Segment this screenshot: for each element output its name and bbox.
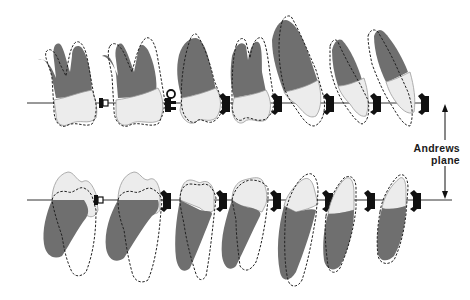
lower-lateral-incisor	[323, 176, 356, 272]
lower-canine	[278, 174, 318, 286]
arrow-down-icon	[442, 191, 448, 199]
molar-tube-icon	[99, 98, 108, 108]
incisor-bracket-icon	[364, 190, 375, 212]
lower-second-premolar	[175, 180, 216, 280]
label-line-2: plane	[400, 154, 460, 166]
andrews-plane-diagram: Andrews plane	[0, 0, 470, 300]
incisor-bracket-icon	[370, 93, 381, 115]
label-line-1: Andrews	[400, 142, 460, 154]
incisor-bracket-icon	[418, 93, 429, 115]
premolar-bracket-icon	[216, 190, 227, 212]
molar-tube-icon	[94, 195, 103, 205]
molar-hook-bracket-icon	[165, 90, 176, 112]
canine-bracket-icon	[323, 93, 334, 115]
lower-first-premolar	[222, 178, 268, 270]
incisor-bracket-icon	[410, 190, 421, 212]
premolar-bracket-icon	[271, 93, 282, 115]
upper-first-molar	[102, 38, 165, 127]
upper-second-premolar	[177, 34, 222, 123]
lower-second-molar	[43, 172, 98, 276]
lower-central-incisor	[377, 175, 408, 264]
lower-first-molar	[106, 172, 162, 282]
arrow-up-icon	[442, 104, 448, 112]
andrews-plane-label: Andrews plane	[400, 142, 460, 166]
upper-first-premolar	[231, 38, 274, 123]
upper-lateral-incisor	[330, 39, 369, 124]
upper-second-molar	[38, 42, 97, 127]
premolar-bracket-icon	[270, 190, 281, 212]
lower-arch	[27, 172, 452, 286]
upper-arch	[27, 16, 429, 126]
